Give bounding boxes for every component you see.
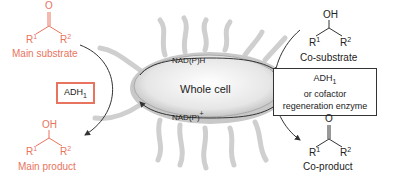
co-substrate-r2: R2 [340,36,351,48]
cofactor-oxidized-label: NAD(P)+ [172,110,204,122]
main-product-hydroxyl: OH [42,119,57,130]
main-product-r2: R2 [60,145,71,157]
co-substrate-label: Co-substrate [300,52,357,63]
main-substrate-label: Main substrate [12,48,78,59]
enzyme-line2: or cofactor [280,88,370,100]
co-product-r1: R1 [309,146,320,158]
co-product-r2: R2 [340,146,351,158]
main-substrate-r1: R1 [26,33,37,45]
cofactor-regeneration-enzyme-box: ADH1 or cofactor regeneration enzyme [273,68,377,116]
enzyme-line1: ADH1 [280,72,370,88]
main-product-label: Main product [18,161,76,172]
main-product-r1: R1 [26,145,37,157]
adh1-enzyme-box: ADH1 [56,82,95,104]
co-substrate-hydroxyl: OH [323,9,338,20]
cofactor-reduced-label: NAD(P)H [172,56,205,65]
co-product-label: Co-product [303,161,352,172]
enzyme-line3: regeneration enzyme [280,100,370,112]
main-substrate-oxygen: O [45,0,53,11]
main-substrate-r2: R2 [60,33,71,45]
whole-cell-label: Whole cell [180,83,231,95]
co-substrate-r1: R1 [309,36,320,48]
co-product-oxygen: O [325,113,333,124]
